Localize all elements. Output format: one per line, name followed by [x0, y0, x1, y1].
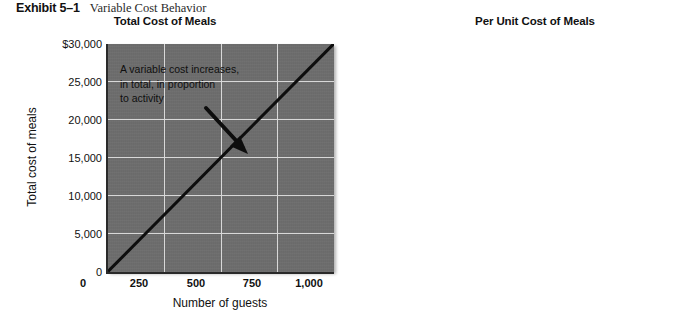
x-tick-label: 1,000: [284, 277, 334, 289]
chart-title: Per Unit Cost of Meals: [424, 15, 646, 27]
y-tick-label: 20,000: [36, 114, 102, 126]
x-tick-label: 250: [114, 277, 164, 289]
x-tick-label: 0: [58, 277, 108, 289]
annotation-arrow-icon: [200, 104, 260, 160]
y-tick-label: 25,000: [36, 76, 102, 88]
x-axis: [106, 272, 334, 274]
chart-per-unit-cost-of-meals: Per Unit Cost of Meals $60 50 40 30 20 1…: [362, 0, 692, 320]
chart-total-cost-of-meals: Total Cost of Meals $30,000 25,000 20,00…: [0, 0, 360, 320]
y-tick-label: 10,000: [36, 190, 102, 202]
annotation-text: A variable cost increases, in total, in …: [120, 62, 270, 106]
y-tick-label: 5,000: [36, 228, 102, 240]
y-tick-label: $30,000: [36, 38, 102, 50]
y-axis: [106, 44, 108, 274]
y-tick-label: 15,000: [36, 152, 102, 164]
x-tick-label: 750: [227, 277, 277, 289]
gridline-vertical: [277, 44, 278, 272]
y-axis-title: Total cost of meals: [25, 77, 39, 237]
chart-title: Total Cost of Meals: [0, 15, 330, 27]
x-axis-title: Number of guests: [106, 296, 334, 310]
x-tick-label: 500: [171, 277, 221, 289]
